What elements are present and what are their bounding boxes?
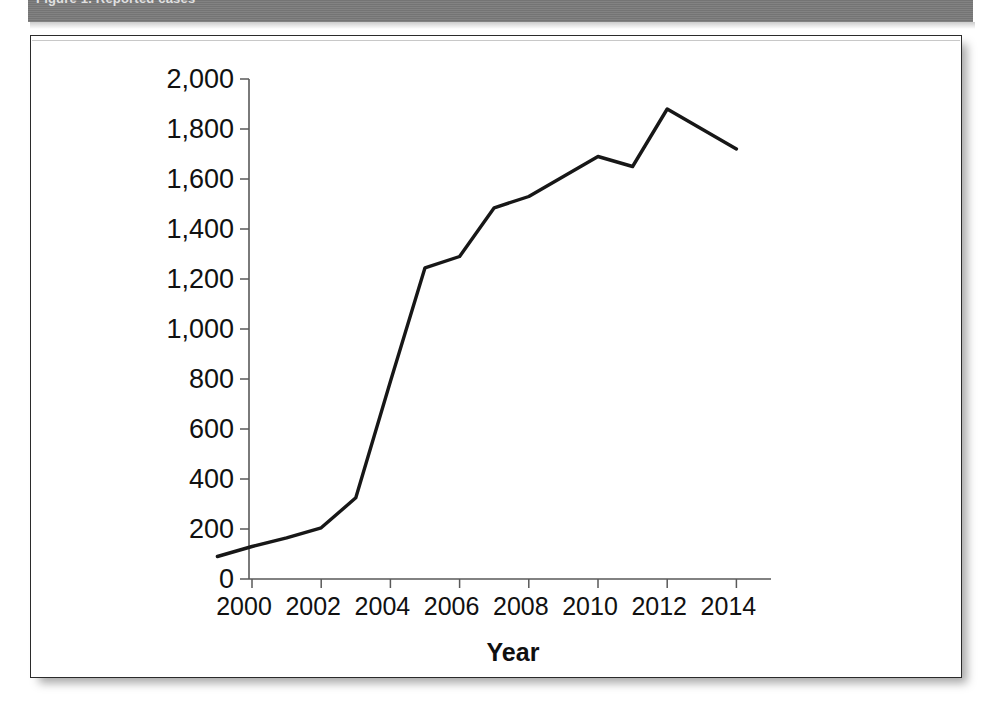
y-tick-label: 0	[219, 564, 234, 594]
x-tick-label: 2006	[424, 592, 480, 620]
x-tick-label: 2014	[701, 592, 757, 620]
chart-canvas: 02004006008001,0001,2001,4001,6001,8002,…	[31, 36, 963, 679]
figure-caption-text: Figure 1. Reported cases	[36, 0, 195, 6]
y-tick-label: 800	[189, 364, 234, 394]
data-series-line	[217, 109, 736, 557]
y-tick-label: 1,000	[166, 314, 234, 344]
x-tick-label: 2012	[631, 592, 687, 620]
y-tick-label: 1,800	[166, 114, 234, 144]
y-axis: 02004006008001,0001,2001,4001,6001,8002,…	[166, 64, 249, 594]
figure-caption-band: Figure 1. Reported cases	[28, 0, 973, 22]
y-tick-label: 400	[189, 464, 234, 494]
x-axis-title: Year	[487, 638, 540, 666]
x-tick-label: 2002	[285, 592, 341, 620]
y-tick-label: 200	[189, 514, 234, 544]
y-tick-label: 600	[189, 414, 234, 444]
y-tick-label: 1,400	[166, 214, 234, 244]
x-tick-label: 2000	[216, 592, 272, 620]
x-tick-label: 2010	[562, 592, 618, 620]
x-tick-label: 2004	[355, 592, 411, 620]
figure-card: 02004006008001,0001,2001,4001,6001,8002,…	[30, 35, 962, 678]
y-tick-label: 2,000	[166, 64, 234, 94]
y-tick-label: 1,600	[166, 164, 234, 194]
y-tick-label: 1,200	[166, 264, 234, 294]
caption-band-shadow	[30, 22, 975, 29]
x-tick-label: 2008	[493, 592, 549, 620]
x-axis: 20002002200420062008201020122014	[216, 579, 771, 620]
line-chart: 02004006008001,0001,2001,4001,6001,8002,…	[31, 36, 963, 679]
